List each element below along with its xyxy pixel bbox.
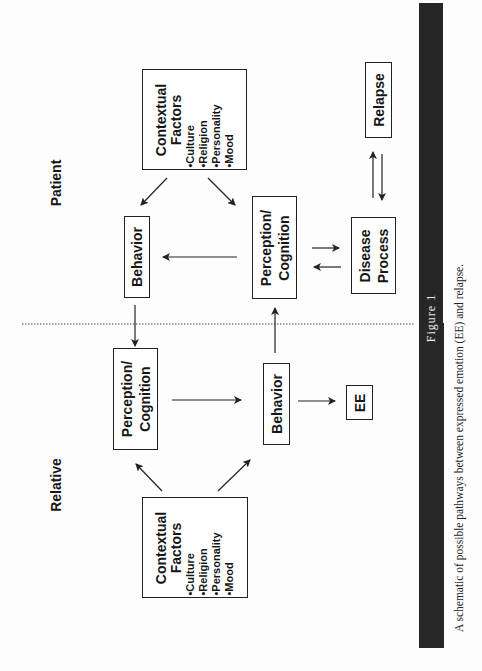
patient-behavior-box: Behavior <box>124 216 150 298</box>
relative-behavior-label: Behavior <box>268 374 286 434</box>
rel-factor-religion: •Religion <box>197 500 210 595</box>
disease-process-box: Disease Process <box>351 217 396 294</box>
figure-band-bottom <box>419 323 444 648</box>
factor-mood: •Mood <box>223 72 236 167</box>
relapse-box: Relapse <box>365 62 392 138</box>
perception-line1: Perception/ <box>257 209 275 285</box>
rel-factor-mood: •Mood <box>223 500 236 595</box>
factor-personality: •Personality <box>210 72 223 167</box>
rel-perception-line1: Perception/ <box>118 361 136 437</box>
relapse-label: Relapse <box>370 73 388 127</box>
rel-factor-personality: •Personality <box>210 500 223 595</box>
figure-caption: A schematic of possible pathways between… <box>453 264 465 632</box>
ee-label: EE <box>351 393 369 412</box>
perception-line2: Cognition <box>275 209 293 285</box>
figure-label: Figure 1 <box>424 294 439 342</box>
contextual-title-line1: Contextual <box>154 72 169 167</box>
rel-perception-line2: Cognition <box>136 361 154 437</box>
section-label-relative: Relative <box>48 448 64 522</box>
factor-religion: •Religion <box>197 72 210 167</box>
patient-contextual-factors-box: Contextual Factors •Culture •Religion •P… <box>142 69 247 170</box>
figure-band-top <box>419 3 443 323</box>
relative-perception-box: Perception/ Cognition <box>113 348 158 450</box>
patient-behavior-label: Behavior <box>128 227 146 287</box>
figure-page: Patient Relative Contextual Factors •Cul… <box>0 0 482 671</box>
relative-behavior-box: Behavior <box>263 363 290 445</box>
relative-contextual-factors-box: Contextual Factors •Culture •Religion •P… <box>142 497 248 598</box>
ee-box: EE <box>346 385 373 420</box>
rel-contextual-title-line1: Contextual <box>154 500 169 595</box>
rel-factor-culture: •Culture <box>184 500 197 595</box>
disease-line2: Process <box>374 228 392 282</box>
factor-culture: •Culture <box>184 72 197 167</box>
patient-perception-box: Perception/ Cognition <box>252 196 297 299</box>
disease-line1: Disease <box>356 228 374 282</box>
section-label-patient: Patient <box>48 153 64 213</box>
rel-contextual-title-line2: Factors <box>169 500 184 595</box>
contextual-title-line2: Factors <box>169 72 184 167</box>
